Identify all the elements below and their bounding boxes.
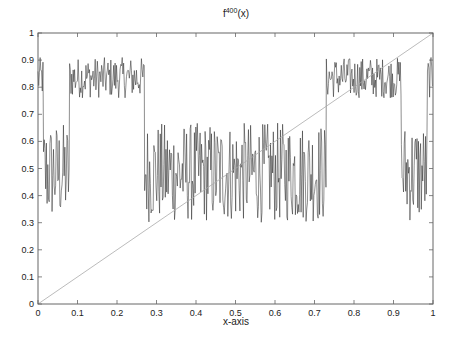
y-tick-label: 0.6	[21, 136, 34, 146]
y-tick-label: 0.9	[21, 55, 34, 65]
x-tick-label: 0	[35, 308, 40, 318]
y-tick-label: 0	[29, 299, 34, 309]
x-tick-label: 0.9	[387, 308, 400, 318]
y-tick-label: 0.8	[21, 82, 34, 92]
x-tick-label: 0.3	[150, 308, 163, 318]
y-tick-label: 0.5	[21, 164, 34, 174]
y-tick-label: 0.4	[21, 191, 34, 201]
chart-canvas: f400(x) 00.10.20.30.40.50.60.70.80.9100.…	[0, 0, 457, 346]
plot-data	[38, 33, 433, 304]
y-tick-label: 1	[29, 28, 34, 38]
x-tick-label: 0.7	[308, 308, 321, 318]
y-tick-label: 0.3	[21, 218, 34, 228]
x-axis-label: x-axis	[223, 316, 249, 327]
chart-title: f400(x)	[223, 7, 249, 19]
x-tick-label: 0.4	[190, 308, 203, 318]
series-identity-line	[38, 33, 433, 304]
chart-figure: f400(x) 00.10.20.30.40.50.60.70.80.9100.…	[0, 0, 457, 346]
x-tick-label: 0.6	[269, 308, 282, 318]
y-tick-label: 0.1	[21, 272, 34, 282]
y-tick-label: 0.2	[21, 245, 34, 255]
x-tick-label: 0.8	[348, 308, 361, 318]
y-tick-label: 0.7	[21, 109, 34, 119]
title-superscript: 400	[226, 7, 238, 14]
x-tick-label: 0.2	[111, 308, 124, 318]
x-tick-label: 1	[430, 308, 435, 318]
title-argument: (x)	[237, 8, 249, 19]
x-tick-label: 0.1	[71, 308, 84, 318]
series-f400	[38, 57, 432, 222]
